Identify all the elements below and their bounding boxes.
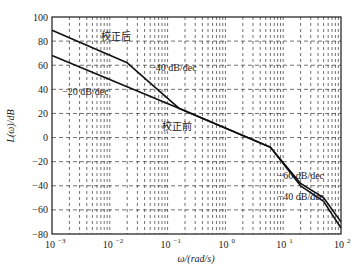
annotation-label: 校正前 xyxy=(162,120,192,132)
y-tick-label: 100 xyxy=(33,12,48,23)
y-tick-label: −60 xyxy=(32,204,48,215)
y-tick-label: 80 xyxy=(38,36,48,47)
y-tick-labels: 100806040200−20−40−60−80 xyxy=(32,12,48,240)
x-tick-labels: 10−310−210−1100101102 xyxy=(45,237,351,250)
x-tick-exponent: 1 xyxy=(289,237,293,245)
annotation-label: −40 dB/dec xyxy=(150,62,197,73)
x-tick-exponent: 2 xyxy=(347,237,351,245)
x-tick-exponent: 0 xyxy=(231,237,235,245)
y-tick-label: 40 xyxy=(38,84,48,95)
x-tick-label: 10 xyxy=(103,239,113,250)
y-tick-label: −20 xyxy=(32,156,48,167)
y-tick-label: 60 xyxy=(38,60,48,71)
annotation-label: 校正后 xyxy=(101,30,131,42)
x-tick-label: 10 xyxy=(334,239,344,250)
x-tick-label: 10 xyxy=(276,239,286,250)
x-tick-label: 10 xyxy=(161,239,171,250)
annotations: 校正后−40 dB/dec−20 dB/dec校正前−60 dB/dec−40 … xyxy=(62,30,324,202)
y-tick-label: 20 xyxy=(38,108,48,119)
y-tick-label: −80 xyxy=(32,229,48,240)
y-axis-label: L(ω)/dB xyxy=(5,109,17,143)
y-tick-label: 0 xyxy=(43,132,48,143)
annotation-label: −60 dB/dec xyxy=(278,170,325,181)
annotation-label: −40 dB/dec xyxy=(278,191,325,202)
x-axis-label: ω/(rad/s) xyxy=(177,253,215,265)
bode-magnitude-chart: 100806040200−20−40−60−80 10−310−210−1100… xyxy=(0,0,354,273)
x-tick-label: 10 xyxy=(218,239,228,250)
x-tick-exponent: −2 xyxy=(116,237,124,245)
x-tick-exponent: −3 xyxy=(58,237,66,245)
x-tick-exponent: −1 xyxy=(174,237,182,245)
y-tick-label: −40 xyxy=(32,180,48,191)
x-tick-label: 10 xyxy=(45,239,55,250)
annotation-label: −20 dB/dec xyxy=(62,86,109,97)
